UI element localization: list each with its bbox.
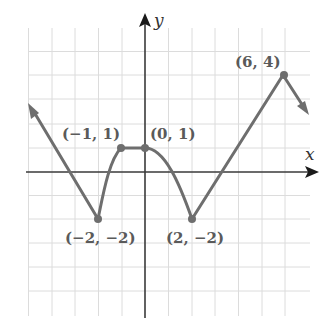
label-neg1-1: (−1, 1) xyxy=(62,125,120,143)
right-ray-arrow-icon xyxy=(297,101,309,115)
label-2-neg2: (2, −2) xyxy=(166,229,224,247)
label-0-1: (0, 1) xyxy=(150,125,196,143)
label-neg2-neg2: (−2, −2) xyxy=(65,229,136,247)
point-2-neg2 xyxy=(188,215,196,223)
point-neg2-neg2 xyxy=(94,215,102,223)
x-axis-label: x xyxy=(305,144,315,164)
function-graph: y x (−1, 1) (0, 1) (−2, −2) (2, −2) (6, … xyxy=(0,0,336,334)
key-points xyxy=(94,71,288,223)
point-neg1-1 xyxy=(117,144,125,152)
y-axis xyxy=(139,13,151,318)
point-6-4 xyxy=(280,71,288,79)
point-0-1 xyxy=(141,144,149,152)
y-axis-label: y xyxy=(153,10,164,30)
label-6-4: (6, 4) xyxy=(235,53,281,71)
